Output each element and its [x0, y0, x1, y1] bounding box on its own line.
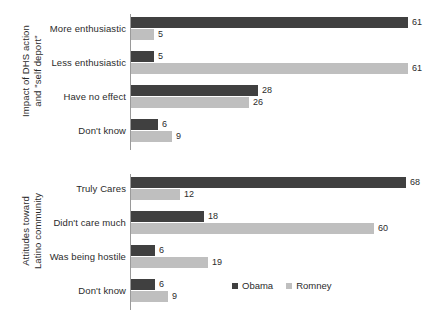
legend-swatch-icon — [286, 283, 292, 289]
chart-legend: Obama Romney — [232, 280, 332, 291]
bar-value-label: 19 — [212, 257, 222, 268]
bar-romney — [131, 29, 154, 40]
chart-panel-dhs-impact: Impact of DHS action and "self deport" M… — [0, 0, 438, 160]
bar-romney — [131, 223, 374, 234]
category-label: Don't know — [36, 125, 126, 136]
category-label: Less enthusiastic — [36, 57, 126, 68]
bar-value-label: 60 — [378, 223, 388, 234]
category-label: Didn't care much — [36, 217, 126, 228]
bar-value-label: 28 — [262, 85, 272, 96]
bar-value-label: 5 — [158, 29, 163, 40]
bar-romney — [131, 189, 180, 200]
bar-obama — [131, 85, 258, 96]
bar-romney — [131, 131, 172, 142]
bar-value-label: 26 — [253, 97, 263, 108]
bar-value-label: 6 — [159, 279, 164, 290]
bar-obama — [131, 211, 204, 222]
y-axis-title-line-1: Impact of DHS action — [20, 0, 32, 151]
bar-value-label: 9 — [176, 131, 181, 142]
category-label: Was being hostile — [36, 251, 126, 262]
bar-obama — [131, 177, 406, 188]
bar-value-label: 9 — [172, 291, 177, 302]
bar-obama — [131, 119, 158, 130]
bar-value-label: 12 — [184, 189, 194, 200]
y-axis-title-line-1: Attitudes toward — [20, 151, 32, 311]
bar-obama — [131, 17, 408, 28]
bar-romney — [131, 291, 168, 302]
bar-romney — [131, 257, 208, 268]
category-label: More enthusiastic — [36, 23, 126, 34]
bar-obama — [131, 279, 155, 290]
category-label: Truly Cares — [36, 183, 126, 194]
plot-area-dhs-impact: 61 5 5 61 28 26 6 9 — [131, 14, 431, 150]
bar-value-label: 5 — [158, 51, 163, 62]
chart-panel-latino-attitudes: Attitudes toward Latino community Truly … — [0, 160, 438, 320]
legend-item-obama: Obama — [232, 280, 273, 291]
bar-value-label: 61 — [412, 17, 422, 28]
bar-value-label: 68 — [410, 177, 420, 188]
bar-value-label: 61 — [412, 63, 422, 74]
category-label: Don't know — [36, 285, 126, 296]
bar-romney — [131, 97, 249, 108]
bar-value-label: 6 — [162, 119, 167, 130]
bar-obama — [131, 51, 154, 62]
legend-label: Romney — [296, 280, 331, 291]
bar-value-label: 6 — [159, 245, 164, 256]
category-labels-latino-attitudes: Truly Cares Didn't care much Was being h… — [36, 174, 126, 310]
legend-label: Obama — [242, 280, 273, 291]
category-labels-dhs-impact: More enthusiastic Less enthusiastic Have… — [36, 14, 126, 150]
bar-value-label: 18 — [208, 211, 218, 222]
bar-obama — [131, 245, 155, 256]
legend-item-romney: Romney — [286, 280, 331, 291]
bar-romney — [131, 63, 408, 74]
category-label: Have no effect — [36, 91, 126, 102]
grouped-bar-chart-figure: Impact of DHS action and "self deport" M… — [0, 0, 438, 320]
legend-swatch-icon — [232, 283, 238, 289]
